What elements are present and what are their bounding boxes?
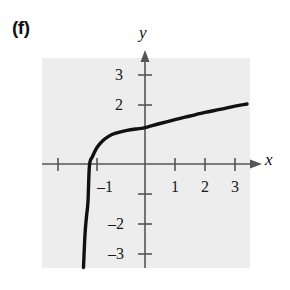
y-tick-label-2: 2	[108, 97, 130, 113]
x-tick-label-1: 1	[164, 179, 186, 195]
x-axis	[42, 160, 262, 169]
y-axis	[141, 50, 150, 268]
y-axis-label: y	[139, 24, 147, 41]
x-axis-label: x	[265, 151, 273, 168]
y-axis-arrowhead	[141, 50, 150, 62]
plot-svg	[0, 0, 290, 290]
x-tick-label-3: 3	[224, 179, 246, 195]
y-tick-label-3: 3	[108, 67, 130, 83]
x-axis-arrowhead	[250, 160, 262, 169]
y-tick-label--3: –3	[101, 246, 131, 262]
x-tick-label-2: 2	[194, 179, 216, 195]
x-tick-label--1: –1	[90, 179, 120, 195]
y-tick-label--2: –2	[101, 216, 131, 232]
figure-container: (f) y x	[0, 0, 290, 290]
